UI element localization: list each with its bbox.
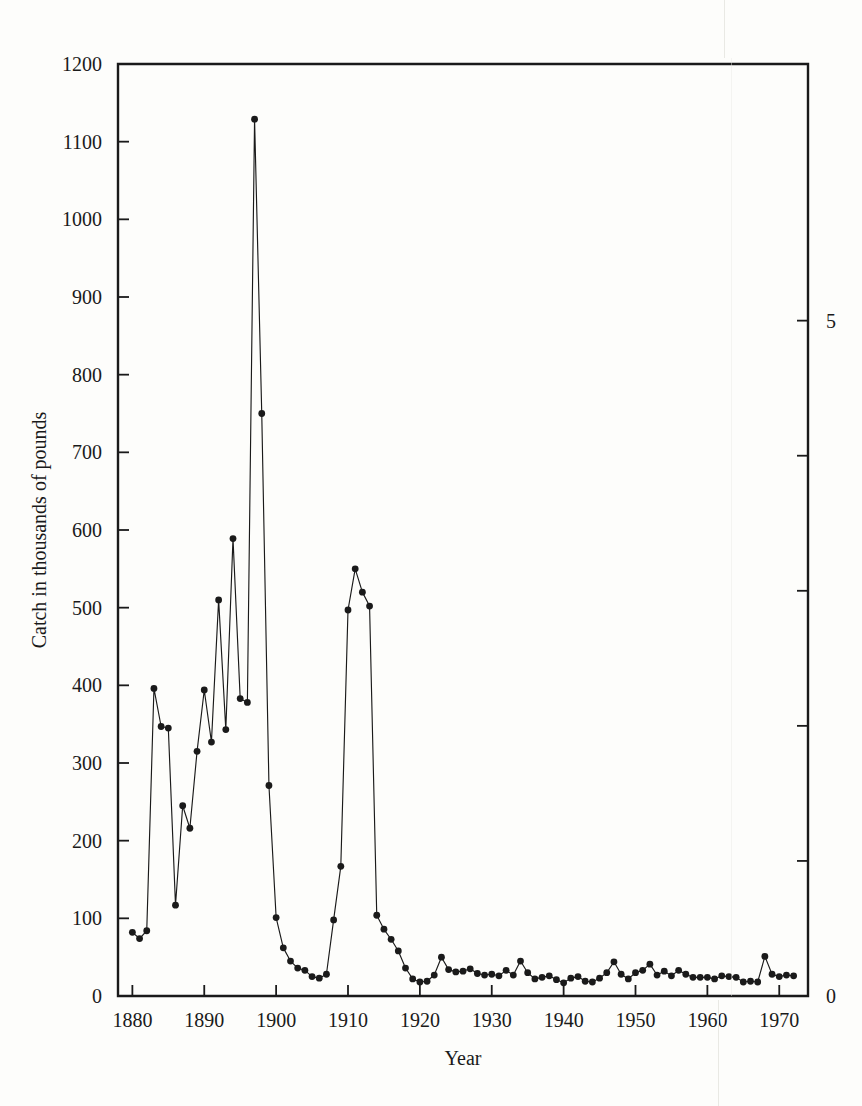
data-point-1951 <box>639 967 646 974</box>
data-point-1958 <box>690 974 697 981</box>
data-point-1956 <box>675 967 682 974</box>
data-point-1925 <box>452 969 459 976</box>
data-point-1970 <box>776 973 783 980</box>
data-point-1900 <box>273 914 280 921</box>
plot-frame <box>118 64 808 996</box>
data-point-1942 <box>575 973 582 980</box>
data-point-1907 <box>323 971 330 978</box>
data-point-1923 <box>438 954 445 961</box>
data-point-1950 <box>632 969 639 976</box>
y-tick-label-1200: 1200 <box>62 53 102 75</box>
data-point-1910 <box>345 607 352 614</box>
data-point-1943 <box>582 978 589 985</box>
y-tick-label-100: 100 <box>72 907 102 929</box>
data-point-1972 <box>790 972 797 979</box>
data-point-1945 <box>596 975 603 982</box>
data-point-1922 <box>431 972 438 979</box>
data-point-1894 <box>230 535 237 542</box>
data-point-1906 <box>316 975 323 982</box>
data-point-1952 <box>646 961 653 968</box>
x-tick-label-1890: 1890 <box>184 1009 224 1031</box>
y-tick-label-300: 300 <box>72 752 102 774</box>
data-point-1892 <box>215 597 222 604</box>
data-point-1939 <box>553 976 560 983</box>
data-point-1914 <box>373 912 380 919</box>
data-point-1954 <box>661 968 668 975</box>
data-point-1905 <box>309 973 316 980</box>
data-point-markers <box>129 116 797 986</box>
y-tick-label-1100: 1100 <box>63 131 102 153</box>
y-axis-title: Catch in thousands of pounds <box>28 411 51 648</box>
y-tick-label-400: 400 <box>72 674 102 696</box>
data-point-1890 <box>201 687 208 694</box>
x-axis-ticks <box>132 985 779 996</box>
data-point-1912 <box>359 589 366 596</box>
x-tick-label-1920: 1920 <box>400 1009 440 1031</box>
data-point-1940 <box>560 979 567 986</box>
data-point-1896 <box>244 699 251 706</box>
data-point-1880 <box>129 929 136 936</box>
data-point-1882 <box>143 927 150 934</box>
y-tick-label-1000: 1000 <box>62 208 102 230</box>
data-point-1921 <box>424 978 431 985</box>
data-point-1963 <box>726 973 733 980</box>
data-point-1902 <box>287 958 294 965</box>
y-tick-label-800: 800 <box>72 364 102 386</box>
y-axis-left-ticks <box>118 142 129 919</box>
data-point-1933 <box>510 972 517 979</box>
data-point-1927 <box>467 965 474 972</box>
data-point-1965 <box>740 979 747 986</box>
y-axis-right-tick-labels: 05 <box>826 310 836 1007</box>
x-tick-label-1910: 1910 <box>328 1009 368 1031</box>
x-tick-label-1930: 1930 <box>472 1009 512 1031</box>
data-point-1886 <box>172 902 179 909</box>
y-tick-label-0: 0 <box>92 985 102 1007</box>
data-point-1889 <box>194 748 201 755</box>
data-point-1895 <box>237 695 244 702</box>
x-tick-label-1950: 1950 <box>616 1009 656 1031</box>
data-point-1920 <box>416 979 423 986</box>
data-point-1947 <box>611 958 618 965</box>
data-point-1904 <box>301 967 308 974</box>
y-tick-label-200: 200 <box>72 830 102 852</box>
data-point-1901 <box>280 944 287 951</box>
x-tick-label-1880: 1880 <box>112 1009 152 1031</box>
figure-container: 0100200300400500600700800900100011001200… <box>0 0 862 1106</box>
data-point-1883 <box>151 685 158 692</box>
data-point-1931 <box>496 972 503 979</box>
data-point-1918 <box>402 965 409 972</box>
data-point-1964 <box>733 974 740 981</box>
data-point-1881 <box>136 935 143 942</box>
data-point-1949 <box>625 976 632 983</box>
data-point-1967 <box>754 979 761 986</box>
data-point-1916 <box>388 936 395 943</box>
data-point-1962 <box>718 972 725 979</box>
y-tick-label-900: 900 <box>72 286 102 308</box>
x-tick-label-1940: 1940 <box>544 1009 584 1031</box>
line-chart: 0100200300400500600700800900100011001200… <box>0 0 862 1106</box>
data-point-1917 <box>395 948 402 955</box>
data-point-1903 <box>294 965 301 972</box>
data-point-1929 <box>481 972 488 979</box>
data-point-1893 <box>222 726 229 733</box>
x-tick-label-1900: 1900 <box>256 1009 296 1031</box>
data-point-1961 <box>711 976 718 983</box>
data-point-1932 <box>503 967 510 974</box>
y-right-tick-label-0: 0 <box>826 985 836 1007</box>
data-point-1926 <box>460 968 467 975</box>
x-axis-title: Year <box>445 1047 482 1069</box>
data-series <box>129 116 797 986</box>
data-point-1971 <box>783 972 790 979</box>
y-axis-left-tick-labels: 0100200300400500600700800900100011001200 <box>62 53 102 1007</box>
data-point-1888 <box>186 825 193 832</box>
data-point-1884 <box>158 723 165 730</box>
data-point-1924 <box>445 966 452 973</box>
data-point-1930 <box>488 971 495 978</box>
data-point-1944 <box>589 979 596 986</box>
data-point-1887 <box>179 802 186 809</box>
data-point-1941 <box>567 975 574 982</box>
data-point-1936 <box>531 976 538 983</box>
data-point-1899 <box>266 782 273 789</box>
data-point-1913 <box>366 603 373 610</box>
data-point-1969 <box>769 971 776 978</box>
